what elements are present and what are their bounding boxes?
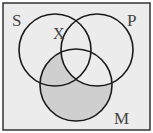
label-x: X [53, 25, 65, 42]
label-p: P [127, 11, 136, 30]
label-m: M [114, 109, 129, 128]
venn-diagram: S P M X [0, 0, 153, 133]
label-s: S [12, 11, 21, 30]
